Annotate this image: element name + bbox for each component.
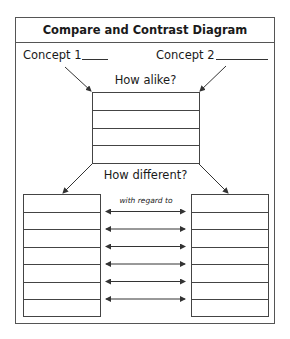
- concept-1-arrow-icon: [65, 67, 91, 91]
- right-different-arrow-icon: [199, 164, 228, 193]
- connector-arrows: [0, 0, 290, 339]
- concept-2-arrow-icon: [200, 66, 226, 91]
- left-different-arrow-icon: [63, 164, 92, 193]
